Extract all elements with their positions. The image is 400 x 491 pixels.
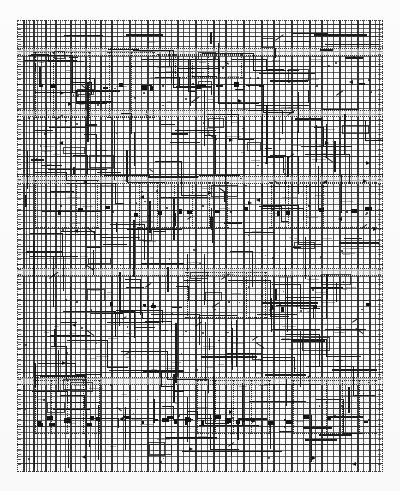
jumper-segment-vertical [175,213,176,226]
frame-tick-right [378,39,381,40]
junction-dot [110,384,112,386]
micro-label-smudge [243,103,255,104]
connector-block [105,206,110,209]
frame-tick-right [378,29,381,30]
micro-label-smudge [132,419,141,420]
frame-tick-right [378,209,381,210]
route-leg-horizontal [107,367,128,368]
route-leg-horizontal [365,140,383,141]
micro-label-smudge [165,368,175,369]
jumper-segment-vertical [348,387,350,413]
route-leg-vertical [252,251,253,287]
jumper-segment-vertical [231,321,232,364]
route-leg-vertical [171,321,172,333]
frame-tick-left [18,274,21,275]
micro-label-smudge [263,264,273,265]
junction-dot [200,379,202,381]
micro-label-smudge [288,107,301,108]
jumper-segment-horizontal [30,256,78,257]
route-leg-vertical [75,363,76,374]
frame-tick-left [18,259,21,260]
jumper-segment-horizontal [232,174,247,175]
frame-tick-left [18,429,21,430]
jumper-segment-horizontal [175,130,216,131]
micro-label-smudge [279,277,292,278]
frame-tick-right [378,179,381,180]
frame-tick-left [18,404,21,405]
frame-tick-right [378,74,381,75]
frame-tick-left [18,234,21,235]
jumper-segment-horizontal [265,148,272,149]
horizontal-rail [17,46,383,47]
jumper-segment-vertical [34,450,35,468]
frame-tick-left [18,349,21,350]
route-leg-vertical [270,280,271,316]
horizontal-rail [17,246,383,247]
frame-tick-left [18,314,21,315]
micro-label-smudge [181,360,195,361]
micro-label-smudge [282,326,296,327]
frame-tick-right [378,404,381,405]
route-leg-horizontal [48,61,84,62]
frame-tick-right [378,259,381,260]
frame-tick-left [18,194,21,195]
micro-label-smudge [310,59,321,60]
junction-dot [76,301,78,303]
junction-dot [130,214,132,216]
junction-dot [245,185,247,187]
connector-block [151,305,156,308]
direction-arrow-icon [373,227,377,231]
component-outline [70,382,93,392]
frame-tick-left [18,34,21,35]
jumper-segment-horizontal [325,44,379,45]
route-leg-horizontal [155,161,181,162]
micro-label-smudge [89,388,103,389]
frame-tick-right [378,89,381,90]
micro-label-smudge [110,446,116,447]
junction-dot [237,338,239,340]
jumper-segment-horizontal [65,234,108,235]
micro-label-smudge [150,77,157,78]
frame-tick-left [18,384,21,385]
frame-tick-left [18,434,21,435]
micro-label-smudge [187,76,194,77]
junction-dot [196,369,198,371]
connector-block [158,211,162,215]
frame-tick-left [18,304,21,305]
micro-label-smudge [242,144,251,145]
connector-block [359,83,365,85]
frame-tick-right [378,64,381,65]
direction-arrow-icon [363,179,367,183]
direction-arrow-icon [238,99,242,103]
micro-label-smudge [95,356,109,357]
horizontal-rail [17,252,383,253]
micro-label-smudge [80,89,87,90]
cluster-module-rail [323,182,324,228]
micro-label-smudge [305,79,319,80]
micro-label-smudge [105,450,111,451]
jumper-segment-vertical [212,217,213,243]
jumper-segment-vertical [232,328,233,370]
jumper-segment-horizontal [153,231,166,232]
frame-tick-left [18,54,21,55]
micro-label-smudge [307,311,311,312]
frame-tick-right [378,104,381,105]
frame-tick-right [378,409,381,410]
connector-block [364,421,368,423]
micro-label-smudge [288,150,301,151]
frame-tick-left [18,244,21,245]
frame-tick-left [18,419,21,420]
connector-block [103,87,108,89]
junction-dot [272,257,274,259]
cluster-module-rail [246,272,247,318]
micro-label-smudge [259,385,267,386]
route-leg-vertical [282,110,283,134]
connector-block [39,84,43,87]
frame-tick-right [378,279,381,280]
connector-block [189,212,192,214]
junction-dot [162,85,164,87]
cluster-module-rail [97,180,98,228]
connector-block [351,209,357,213]
frame-tick-left [18,189,21,190]
route-leg-vertical [303,208,304,220]
